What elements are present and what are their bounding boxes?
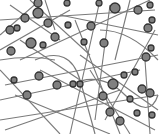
network-node [21, 14, 29, 22]
network-node [106, 108, 114, 116]
network-illustration [0, 0, 160, 134]
network-node [81, 39, 87, 45]
network-node [132, 69, 138, 75]
network-node [26, 38, 36, 48]
network-node [14, 25, 20, 31]
network-node [77, 81, 83, 87]
network-node [35, 72, 43, 80]
network-node [65, 22, 71, 28]
network-node [127, 96, 133, 102]
network-node [110, 3, 120, 13]
network-node [108, 79, 118, 89]
network-node [121, 72, 127, 78]
network-node [142, 53, 150, 61]
network-node [96, 0, 102, 6]
network-graphic [0, 0, 160, 134]
network-node [146, 89, 154, 97]
network-node [40, 42, 46, 48]
network-node [144, 24, 152, 32]
network-node [149, 112, 155, 118]
network-node [64, 0, 70, 6]
network-node [33, 8, 43, 18]
network-node [51, 33, 59, 41]
network-node [44, 19, 52, 27]
network-node [7, 47, 15, 55]
network-node [87, 22, 95, 30]
network-node [34, 0, 42, 7]
network-node [116, 117, 124, 125]
network-node [53, 81, 61, 89]
network-node [147, 2, 153, 8]
network-node [11, 77, 17, 83]
network-node [6, 26, 14, 34]
network-node [23, 91, 31, 99]
network-node [134, 6, 142, 14]
network-node [99, 92, 107, 100]
network-node [149, 17, 155, 23]
network-node [70, 81, 76, 87]
network-node [134, 110, 140, 116]
network-node [100, 39, 108, 47]
network-node [138, 85, 146, 93]
network-node [148, 45, 154, 51]
